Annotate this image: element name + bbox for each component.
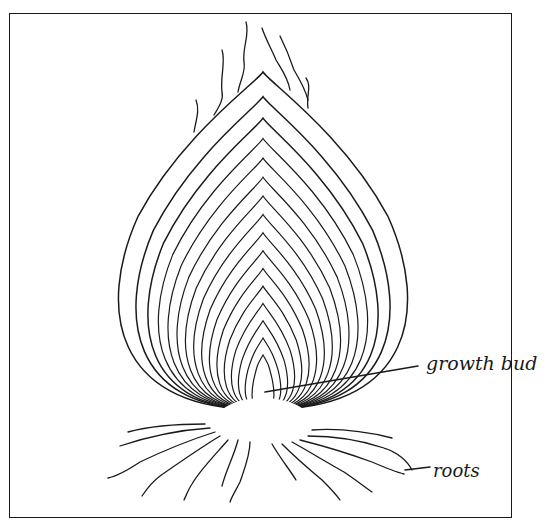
root-line [308, 436, 412, 470]
root-line [292, 442, 372, 492]
roots-leader-line [405, 467, 430, 470]
bulb-scale-line [118, 72, 407, 409]
root-line [300, 440, 404, 474]
dry-skin-wisp [280, 36, 308, 100]
growth-bud-label: growth bud [426, 352, 537, 374]
dry-skin-wisp [262, 28, 290, 90]
root-line [128, 424, 205, 432]
root-line [142, 436, 220, 496]
onion-bulb-drawing [0, 0, 552, 532]
bulb-scale-line [194, 215, 332, 409]
roots-label: roots [433, 460, 480, 481]
root-line [230, 442, 250, 502]
onion-diagram: growth bud roots [0, 0, 552, 532]
dry-skin-wisp [194, 100, 198, 132]
dry-skin-wisp [238, 22, 247, 92]
root-line [184, 440, 228, 500]
dry-skin-wisp [214, 50, 223, 115]
bulb-scale-line [177, 177, 349, 409]
bulb-scale-line [231, 304, 294, 409]
root-line [272, 444, 296, 480]
root-line [108, 432, 215, 478]
root-line [222, 440, 238, 486]
